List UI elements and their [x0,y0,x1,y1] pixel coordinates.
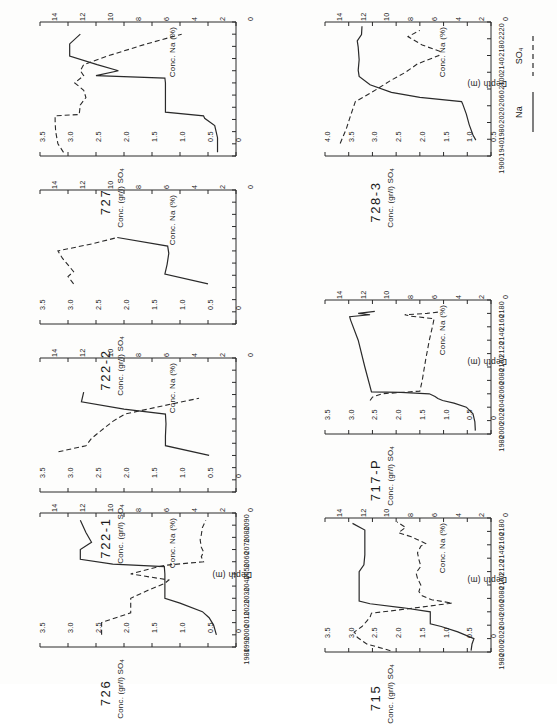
legend-label-sodium: Na [514,106,524,118]
y2-tick-label: 2 [477,295,486,299]
y2-tick-label: 4 [454,17,463,21]
y2-tick-label: 2 [218,17,227,21]
y-axis-title: Conc. (gr/l) SO4 [386,664,395,724]
y-tick-label: 2.0 [122,299,131,310]
x-tick-label: 2090 [242,514,251,531]
y-tick-label: 3.5 [38,467,47,478]
y-tick-label: 2.5 [94,622,103,633]
y2-tick-label: 8 [406,17,415,21]
y-tick-label: 2.0 [394,409,403,420]
y-tick-label: 3.0 [66,299,75,310]
legend-swatch-sulphate [526,36,540,76]
x-axis-title: Depth (m) [212,570,252,580]
y2-tick-label: 8 [134,17,143,21]
y2-tick-label: 0 [246,508,255,512]
y-tick-label: 3.0 [66,131,75,142]
y2-tick-label: 2 [477,513,486,517]
x-tick-label: 2180 [497,301,506,318]
x-tick-label: 2180 [497,519,506,536]
y2-tick-label: 12 [359,13,368,21]
y2-tick-label: 6 [430,513,439,517]
y-tick-label: 3.5 [38,299,47,310]
y-tick-label: 3.0 [370,131,379,142]
chart-title-728-3: 728-3 [368,181,383,222]
y2-tick-label: 4 [190,353,199,357]
y-tick-label: 1.5 [418,409,427,420]
y2-tick-label: 12 [78,13,87,21]
y-tick-label: 2.5 [394,131,403,142]
y2-tick-label: 14 [50,349,59,357]
y-tick-label: 2.5 [370,627,379,638]
y-tick-label: 2.0 [394,627,403,638]
y2-tick-label: 10 [382,509,391,517]
y2-axis-title: Conc. Na (%) [168,27,177,77]
y-axis-title: Conc. (gr/l) SO4 [116,659,125,719]
series-so4 [58,238,117,284]
series-na [117,238,208,284]
y2-tick-label: 6 [430,17,439,21]
y2-tick-label: 10 [382,291,391,299]
y2-tick-label: 0 [246,17,255,21]
y2-tick-label: 10 [382,13,391,21]
y-tick-label: 0.5 [206,467,215,478]
y2-tick-label: 14 [50,13,59,21]
legend-item-sulphate: SO4 [500,30,546,84]
y2-tick-label: 4 [454,295,463,299]
y-tick-label: 3.5 [323,409,332,420]
y-tick-label: 2.5 [94,131,103,142]
y2-tick-label: 6 [162,185,171,189]
y2-axis-title: Conc. Na (%) [168,363,177,413]
y2-axis-title: Conc. Na (%) [438,523,447,573]
y-tick-label: 0.5 [206,299,215,310]
y2-tick-label: 6 [162,17,171,21]
y-tick-label: 0 [234,306,243,310]
legend-swatch-sodium [526,92,540,132]
y-tick-label: 2.0 [418,131,427,142]
y2-tick-label: 8 [406,295,415,299]
series-so4 [102,520,206,635]
y-axis-title: Conc. (gr/l) SO4 [386,446,395,506]
y2-tick-label: 8 [406,513,415,517]
y2-axis-title: Conc. Na (%) [438,27,447,77]
y-tick-label: 2.5 [94,467,103,478]
y2-tick-label: 6 [162,353,171,357]
y2-tick-label: 0 [246,185,255,189]
x-tick-label: 1900 [497,157,506,174]
y-tick-label: 3.0 [347,409,356,420]
legend-item-sodium: Na [500,86,546,140]
y2-tick-label: 0 [246,353,255,357]
y2-tick-label: 8 [134,508,143,512]
y2-tick-label: 14 [335,291,344,299]
y-tick-label: 1.0 [178,622,187,633]
y2-tick-label: 12 [78,504,87,512]
series-so4 [340,30,440,143]
y-tick-label: 0.5 [206,131,215,142]
x-axis-title: Depth (m) [467,575,507,585]
y-tick-label: 2.0 [122,622,131,633]
y2-tick-label: 4 [190,185,199,189]
y2-tick-label: 0 [501,17,510,21]
y-tick-label: 1.0 [442,627,451,638]
series-na [70,34,218,152]
y-tick-label: 0.5 [206,622,215,633]
y2-tick-label: 2 [218,353,227,357]
y2-tick-label: 6 [162,508,171,512]
y2-tick-label: 4 [454,513,463,517]
y2-axis-title: Conc. Na (%) [168,518,177,568]
y-tick-label: 0 [234,138,243,142]
legend: SO4Na [500,30,550,140]
x-axis-title: Depth (m) [467,357,507,367]
y-tick-label: 2.5 [370,409,379,420]
y-tick-label: 3.5 [347,131,356,142]
y-tick-label: 1.5 [442,131,451,142]
y2-tick-label: 10 [106,504,115,512]
y-tick-label: 1.5 [150,299,159,310]
y2-tick-label: 4 [190,508,199,512]
y2-tick-label: 14 [50,504,59,512]
chart-title-717-P: 717-P [368,459,383,502]
y2-tick-label: 0 [501,513,510,517]
y2-tick-label: 10 [106,349,115,357]
y-tick-label: 2.0 [122,467,131,478]
y2-tick-label: 2 [477,17,486,21]
y-tick-label: 1.5 [150,622,159,633]
